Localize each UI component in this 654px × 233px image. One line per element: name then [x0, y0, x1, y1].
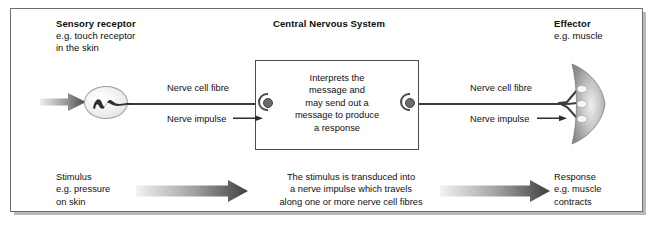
- transduction-arrow-2-icon: [440, 180, 550, 202]
- transduction-line-3: along one or more nerve cell fibres: [256, 196, 446, 208]
- transduction-line-1: The stimulus is transduced into: [256, 171, 446, 183]
- end-plate-3: [577, 115, 587, 122]
- transduction-arrow-1-icon: [136, 180, 248, 202]
- header-central-nervous-system: Central Nervous System: [273, 18, 385, 30]
- cns-text-line-1: Interprets the: [258, 72, 416, 84]
- label-nerve-impulse-right: Nerve impulse: [470, 113, 529, 125]
- end-plate-2: [577, 100, 587, 107]
- bottom-response-text: Response e.g. muscle contracts: [554, 171, 602, 208]
- header-effector: Effector e.g. muscle: [554, 18, 603, 42]
- stimulus-line-3: on skin: [56, 196, 110, 208]
- synapse-dot-icon: [405, 98, 415, 108]
- header-sensory-title: Sensory receptor: [56, 18, 136, 30]
- motor-end-plate-branches-icon: [559, 89, 578, 119]
- receptor-nerve-ending-icon: [84, 86, 132, 120]
- nerve-fibre-line-right: [409, 103, 566, 105]
- response-line-3: contracts: [554, 196, 602, 208]
- bottom-transduction-text: The stimulus is transduced into a nerve …: [256, 171, 446, 208]
- label-nerve-cell-fibre-left: Nerve cell fibre: [167, 82, 229, 94]
- label-nerve-impulse-left: Nerve impulse: [167, 113, 226, 125]
- header-sensory-sub2: in the skin: [56, 42, 136, 54]
- stimulus-line-2: e.g. pressure: [56, 183, 110, 195]
- header-effector-title: Effector: [554, 18, 603, 30]
- stimulus-line-1: Stimulus: [56, 171, 110, 183]
- label-nerve-cell-fibre-right: Nerve cell fibre: [470, 82, 532, 94]
- synapse-dot-icon: [263, 98, 273, 108]
- header-sensory-sub1: e.g. touch receptor: [56, 30, 136, 42]
- transduction-line-2: a nerve impulse which travels: [256, 183, 446, 195]
- cns-text-line-3: may send out a: [258, 97, 416, 109]
- cns-box-text: Interprets the message and may send out …: [258, 72, 416, 134]
- cns-text-line-4: message to produce: [258, 109, 416, 121]
- nerve-fibre-line-left: [118, 103, 266, 105]
- nerve-impulse-direction-arrow-left-icon: [233, 114, 263, 122]
- header-effector-sub1: e.g. muscle: [554, 30, 603, 42]
- header-cns-title: Central Nervous System: [273, 18, 385, 30]
- synapse-node-output: [400, 93, 422, 115]
- cns-text-line-2: message and: [258, 84, 416, 96]
- stimulus-entry-arrow-icon: [40, 92, 86, 112]
- sensory-receptor-graphic: [84, 86, 132, 120]
- end-plate-1: [577, 85, 587, 92]
- synapse-node-input: [258, 93, 280, 115]
- response-line-2: e.g. muscle: [554, 183, 602, 195]
- header-sensory-receptor: Sensory receptor e.g. touch receptor in …: [56, 18, 136, 55]
- diagram-canvas: Sensory receptor e.g. touch receptor in …: [0, 0, 654, 233]
- bottom-stimulus-text: Stimulus e.g. pressure on skin: [56, 171, 110, 208]
- effector-muscle-graphic: [558, 58, 610, 150]
- cns-text-line-5: a response: [258, 122, 416, 134]
- response-line-1: Response: [554, 171, 602, 183]
